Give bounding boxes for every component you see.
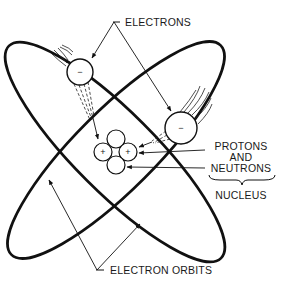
nucleus-brace	[209, 175, 275, 185]
neutron-bottom	[107, 156, 125, 174]
electron-1-dashed-trails	[74, 82, 94, 120]
electrons-label: ELECTRONS	[125, 16, 191, 28]
electron-1: −	[67, 59, 93, 85]
electron-1-sign: −	[77, 67, 82, 77]
electron-2-sign: −	[178, 123, 183, 133]
electron-1-path-arrow	[93, 118, 98, 139]
nucleus-label: NUCLEUS	[215, 189, 267, 201]
neutrons-label: NEUTRONS	[211, 162, 272, 174]
electron-orbits-callout: ELECTRON ORBITS	[49, 180, 212, 276]
proton-left-sign: +	[100, 147, 105, 157]
electron-orbits-label: ELECTRON ORBITS	[110, 264, 212, 276]
proton-right-sign: +	[125, 147, 130, 157]
electron-2-path-arrow	[139, 142, 152, 147]
electrons-callout: ELECTRONS	[92, 16, 191, 111]
electron-2: −	[165, 112, 197, 144]
atom-diagram: − − + + ELECTRONS PROTONS AND NEUTRONS N…	[0, 0, 284, 288]
